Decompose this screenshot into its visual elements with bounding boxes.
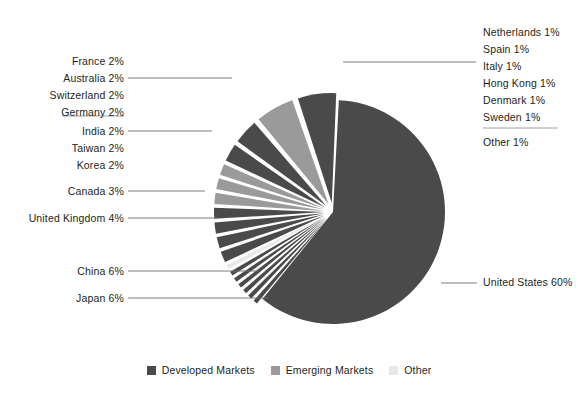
label-canada: Canada 3% [0,186,124,197]
label-china: China 6% [0,266,124,277]
label-india: India 2% [0,126,124,137]
label-united-kingdom: United Kingdom 4% [0,213,124,224]
label-germany: Germany 2% [0,107,124,118]
label-taiwan: Taiwan 2% [0,143,124,154]
label-united-states: United States 60% [483,277,573,288]
label-switzerland: Switzerland 2% [0,90,124,101]
legend-swatch-icon [147,366,156,375]
chart-legend: Developed Markets Emerging Markets Other [0,365,578,376]
label-japan: Japan 6% [0,293,124,304]
label-other: Other 1% [483,137,529,148]
chart-canvas: Netherlands 1% Spain 1% Italy 1% Hong Ko… [0,0,578,411]
label-hong-kong: Hong Kong 1% [483,78,555,89]
legend-label: Emerging Markets [286,365,374,376]
legend-item-developed-markets: Developed Markets [147,365,255,376]
label-australia: Australia 2% [0,73,124,84]
label-spain: Spain 1% [483,44,529,55]
legend-label: Other [404,365,431,376]
label-denmark: Denmark 1% [483,95,545,106]
pie-slices-group [214,93,445,324]
label-sweden: Sweden 1% [483,112,540,123]
legend-swatch-icon [271,366,280,375]
legend-swatch-icon [389,366,398,375]
label-italy: Italy 1% [483,61,522,72]
legend-item-other: Other [389,365,431,376]
legend-item-emerging-markets: Emerging Markets [271,365,374,376]
label-korea: Korea 2% [0,160,124,171]
label-netherlands: Netherlands 1% [483,27,560,38]
legend-label: Developed Markets [162,365,255,376]
label-france: France 2% [0,56,124,67]
